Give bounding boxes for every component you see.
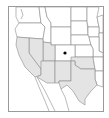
state-nebraska	[71, 35, 91, 45]
state-iowa	[88, 27, 99, 37]
state-south-dakota	[71, 21, 88, 35]
state-utah	[43, 42, 55, 61]
state-new-mexico	[55, 61, 71, 83]
state-wyoming	[51, 27, 71, 45]
state-washington	[16, 7, 41, 23]
location-marker-dot	[63, 51, 66, 54]
state-north-dakota	[71, 7, 87, 21]
state-oregon	[15, 23, 45, 39]
state-illinois	[99, 33, 103, 53]
us-map-svg	[9, 7, 103, 111]
locator-map: Colorado	[8, 6, 104, 112]
gulf-coastline	[61, 89, 69, 111]
state-kansas	[75, 45, 93, 57]
